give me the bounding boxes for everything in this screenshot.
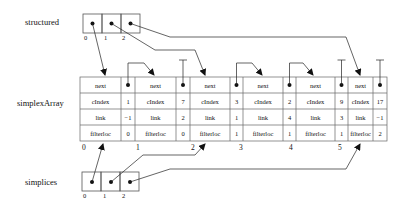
row-label-filterloc: filterloc — [350, 130, 371, 137]
row-label-filterloc: filterloc — [305, 130, 326, 137]
link-value: 3 — [340, 114, 343, 121]
filterloc-value: 0 — [181, 130, 184, 137]
entry-index: 5 — [338, 143, 342, 152]
cindex-value: 1 — [126, 98, 129, 105]
filterloc-value: 0 — [126, 130, 129, 137]
row-label-next: next — [150, 82, 161, 89]
cindex-value: 3 — [235, 98, 238, 105]
row-label-link: link — [205, 114, 216, 121]
simplices-pointers — [92, 144, 360, 182]
row-label-link: link — [258, 114, 269, 121]
row-label-next: next — [257, 82, 268, 89]
row-label-filterloc: filterloc — [90, 130, 111, 137]
row-label-link: link — [355, 114, 366, 121]
row-label-filterloc: filterloc — [253, 130, 274, 137]
entry-index: 4 — [289, 143, 293, 152]
cindex-value: 17 — [377, 98, 384, 105]
simplices-index: 0 — [83, 192, 86, 199]
row-label-next: next — [95, 82, 106, 89]
next-pointer-dots — [126, 83, 382, 87]
row-label-cindex: cIndex — [201, 98, 219, 105]
link-value: 1 — [235, 114, 238, 121]
entry-index: 0 — [82, 143, 86, 152]
link-value: 2 — [181, 114, 184, 121]
cindex-value: 7 — [181, 98, 185, 105]
row-label-cindex: cIndex — [352, 98, 370, 105]
structured-pointers — [93, 24, 361, 76]
row-label-cindex: cIndex — [92, 98, 110, 105]
row-label-filterloc: filterloc — [200, 130, 221, 137]
structured-index: 0 — [84, 34, 87, 41]
simplices-indices: 0 1 2 — [83, 192, 125, 199]
row-label-link: link — [310, 114, 321, 121]
filterloc-value: 1 — [288, 130, 291, 137]
structured-index: 1 — [104, 34, 107, 41]
row-label-cindex: cIndex — [254, 98, 272, 105]
entry-index: 3 — [239, 143, 243, 152]
row-label-next: next — [204, 82, 215, 89]
simplices-ptr-2 — [130, 144, 360, 182]
simplices-index: 1 — [103, 192, 106, 199]
entry-indices: 0 1 2 3 4 5 — [82, 143, 342, 152]
filterloc-value: 2 — [378, 130, 381, 137]
row-label-filterloc: filterloc — [145, 130, 166, 137]
diagram-canvas: 0 1 2 0 1 2 next — [0, 0, 405, 214]
filterloc-value: 1 — [340, 130, 343, 137]
structured-index: 2 — [122, 34, 125, 41]
row-label-cindex: cIndex — [307, 98, 325, 105]
row-label-cindex: cIndex — [147, 98, 165, 105]
row-label-next: next — [310, 82, 321, 89]
row-label-link: link — [95, 114, 106, 121]
simplices-index: 2 — [122, 192, 125, 199]
cindex-value: 2 — [288, 98, 291, 105]
entry-index: 1 — [136, 143, 140, 152]
cindex-value: 9 — [340, 98, 343, 105]
row-label-link: link — [150, 114, 161, 121]
structured-indices: 0 1 2 — [84, 34, 125, 41]
entry-index: 2 — [191, 143, 195, 152]
link-value: −1 — [125, 114, 132, 121]
structured-ptr-2 — [131, 24, 361, 76]
structured-ptr-1 — [112, 24, 206, 76]
structured-ptr-0 — [93, 24, 106, 76]
filterloc-value: 1 — [235, 130, 238, 137]
link-value: −1 — [377, 114, 384, 121]
link-value: 4 — [288, 114, 292, 121]
row-label-next: next — [355, 82, 366, 89]
